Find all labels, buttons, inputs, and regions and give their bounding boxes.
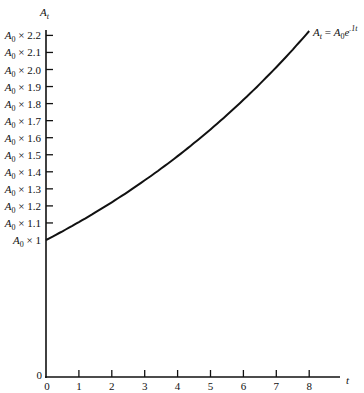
x-tick-label: 8: [306, 380, 312, 392]
x-tick-label: 3: [142, 380, 148, 392]
y-tick-label: A0 × 1.8: [4, 98, 42, 113]
y-tick-label: A0 × 1.1: [4, 217, 41, 232]
exponential-growth-chart: AttA0 × 1A0 × 1.1A0 × 1.2A0 × 1.3A0 × 1.…: [0, 0, 364, 393]
y-tick-label: A0 × 1: [12, 234, 41, 249]
curve-equation-label: At = A0e.1t: [312, 24, 358, 41]
x-tick-label: 4: [175, 380, 181, 392]
x-axis-label: t: [346, 374, 350, 386]
y-tick-label: A0 × 1.4: [4, 166, 42, 181]
x-tick-label: 5: [208, 380, 214, 392]
x-tick-label: 1: [76, 380, 82, 392]
y-tick-label: A0 × 2.1: [4, 46, 41, 61]
y-axis-label: At: [39, 6, 50, 21]
y-tick-label: A0 × 2.0: [4, 64, 42, 79]
x-tick-label: 7: [274, 380, 280, 392]
y-tick-label: A0 × 1.5: [4, 149, 42, 164]
y-tick-label: A0 × 2.2: [4, 29, 41, 44]
growth-curve: [46, 31, 309, 240]
y-tick-label: A0 × 1.7: [4, 115, 42, 130]
x-tick-label: 2: [109, 380, 115, 392]
y-tick-label: A0 × 1.6: [4, 132, 42, 147]
x-tick-label: 6: [241, 380, 247, 392]
x-tick-label: 0: [44, 380, 50, 392]
y-tick-label: A0 × 1.9: [4, 81, 42, 96]
y-tick-label: A0 × 1.3: [4, 183, 42, 198]
y-tick-label: A0 × 1.2: [4, 200, 41, 215]
y-origin-label: 0: [37, 369, 43, 381]
